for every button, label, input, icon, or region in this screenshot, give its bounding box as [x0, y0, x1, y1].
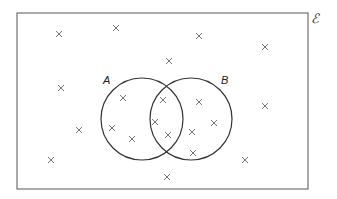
cross-icon — [190, 150, 196, 156]
cross-icon — [152, 119, 158, 125]
cross-icon — [76, 127, 82, 133]
venn-diagram: ℰ A B — [0, 0, 337, 199]
cross-icon — [211, 120, 217, 126]
set-b-label: B — [221, 74, 228, 86]
cross-icon — [164, 174, 170, 180]
cross-icon — [165, 132, 171, 138]
set-a-circle — [101, 78, 183, 160]
cross-icon — [262, 44, 268, 50]
cross-icon — [196, 33, 202, 39]
cross-icon — [113, 25, 119, 31]
cross-icon — [189, 129, 195, 135]
cross-icon — [56, 31, 62, 37]
set-a-label: A — [102, 74, 110, 86]
cross-icon — [262, 103, 268, 109]
set-b-circle — [150, 78, 232, 160]
cross-icon — [160, 97, 166, 103]
cross-icon — [129, 136, 135, 142]
cross-icon — [196, 99, 202, 105]
cross-icon — [109, 125, 115, 131]
universal-set-label: ℰ — [311, 11, 320, 26]
cross-icon — [58, 85, 64, 91]
cross-icon — [48, 157, 54, 163]
cross-icon — [120, 95, 126, 101]
cross-icon — [242, 157, 248, 163]
cross-icon — [166, 58, 172, 64]
